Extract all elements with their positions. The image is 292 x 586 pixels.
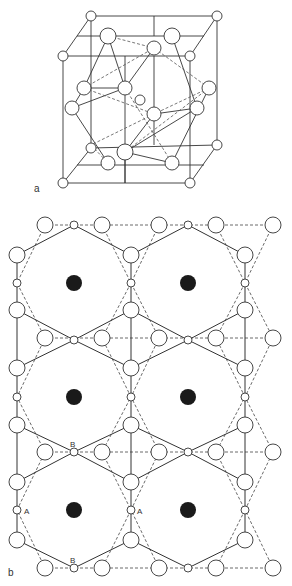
panel-a-label: a: [34, 183, 40, 194]
site-label-a-left: A: [24, 507, 30, 516]
site-label-b-upper: B: [70, 440, 75, 449]
panel-b-large-atoms: [9, 217, 281, 576]
panel-b-label: b: [8, 567, 14, 578]
panel-b-dashed-network: [17, 225, 273, 568]
crystal-structure-figure: a: [0, 0, 292, 586]
site-label-a-center: A: [137, 507, 143, 516]
site-label-b-lower: B: [70, 556, 75, 565]
panel-a-atoms: [58, 11, 222, 188]
